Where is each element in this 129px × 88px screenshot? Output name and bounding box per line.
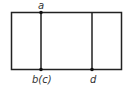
outer-rectangle [12, 13, 122, 70]
label-a: a [38, 0, 44, 11]
point-b-dot [39, 68, 43, 72]
point-a-dot [39, 11, 43, 15]
diagram-canvas: a b(c) d [0, 0, 129, 88]
point-d-dot [90, 68, 94, 72]
label-d: d [90, 74, 97, 85]
label-b-c: b(c) [32, 74, 52, 85]
